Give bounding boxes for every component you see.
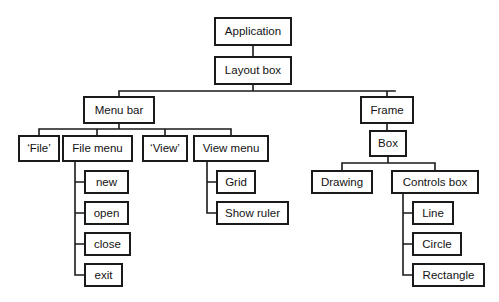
node-label-box: Box [378, 137, 398, 149]
tree-node-view_literal[interactable]: ‘View’ [143, 136, 187, 161]
node-label-file_literal: ‘File’ [27, 142, 51, 154]
tree-node-circle[interactable]: Circle [413, 233, 461, 255]
tree-node-menu_bar[interactable]: Menu bar [84, 97, 154, 123]
tree-node-application[interactable]: Application [215, 18, 291, 45]
tree-node-frame[interactable]: Frame [361, 97, 413, 123]
node-label-view_literal: ‘View’ [150, 142, 180, 154]
connector-path [403, 193, 413, 275]
node-label-circle: Circle [422, 238, 451, 250]
connector-path [39, 123, 231, 136]
node-label-application: Application [225, 25, 281, 37]
tree-node-file_literal[interactable]: ‘File’ [19, 136, 59, 161]
connector-path [207, 161, 217, 213]
node-label-line: Line [422, 207, 444, 219]
tree-node-controls_box[interactable]: Controls box [392, 171, 478, 193]
node-label-open: open [94, 207, 120, 219]
tree-node-exit[interactable]: exit [85, 264, 122, 286]
tree-node-layout_box[interactable]: Layout box [215, 57, 291, 84]
node-label-layout_box: Layout box [225, 64, 282, 76]
tree-diagram-canvas: ApplicationLayout boxMenu barFrame‘File’… [0, 0, 499, 302]
tree-node-box[interactable]: Box [370, 131, 406, 156]
tree-node-close[interactable]: close [85, 233, 130, 255]
node-label-view_menu: View menu [203, 142, 260, 154]
node-label-frame: Frame [370, 104, 403, 116]
hierarchy-tree-svg: ApplicationLayout boxMenu barFrame‘File’… [0, 0, 499, 302]
tree-node-file_menu[interactable]: File menu [63, 136, 132, 161]
node-label-drawing: Drawing [321, 176, 363, 188]
tree-node-open[interactable]: open [85, 202, 128, 224]
tree-node-new[interactable]: new [85, 171, 128, 193]
connector-path [342, 156, 435, 171]
node-label-rectangle: Rectangle [423, 269, 475, 281]
node-label-menu_bar: Menu bar [95, 104, 144, 116]
connector-path [119, 84, 395, 97]
tree-node-rectangle[interactable]: Rectangle [413, 264, 484, 286]
tree-node-drawing[interactable]: Drawing [312, 171, 372, 193]
node-label-show_ruler: Show ruler [225, 207, 280, 219]
tree-node-line[interactable]: Line [413, 202, 453, 224]
connector-path [75, 161, 85, 275]
tree-node-view_menu[interactable]: View menu [194, 136, 268, 161]
tree-node-grid[interactable]: Grid [217, 171, 255, 193]
node-label-grid: Grid [225, 176, 247, 188]
tree-nodes-group: ApplicationLayout boxMenu barFrame‘File’… [19, 18, 484, 286]
tree-node-show_ruler[interactable]: Show ruler [217, 202, 288, 224]
node-label-close: close [94, 238, 121, 250]
node-label-new: new [96, 176, 118, 188]
node-label-controls_box: Controls box [403, 176, 468, 188]
node-label-exit: exit [95, 269, 114, 281]
node-label-file_menu: File menu [72, 142, 123, 154]
